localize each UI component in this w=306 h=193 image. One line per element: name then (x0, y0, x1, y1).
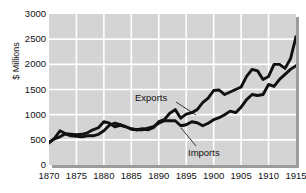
y-tick-label: 0 (18, 160, 46, 170)
plot-area (49, 14, 296, 165)
x-tick-label: 1870 (34, 170, 64, 181)
y-axis-tick-labels: 050010001500200025003000 (14, 0, 46, 193)
y-tick-label: 3000 (18, 9, 46, 19)
imports-series-label: Imports (188, 147, 220, 158)
y-tick-label: 500 (18, 135, 46, 145)
y-tick-label: 1500 (18, 85, 46, 95)
x-tick-label: 1890 (144, 170, 174, 181)
x-tick-label: 1915 (281, 170, 306, 181)
y-tick-label: 1000 (18, 110, 46, 120)
x-tick-label: 1880 (89, 170, 119, 181)
exports-series-label: Exports (135, 92, 167, 103)
y-tick-label: 2000 (18, 59, 46, 69)
x-tick-label: 1895 (171, 170, 201, 181)
series-line-imports (49, 66, 296, 143)
y-tick-label: 2500 (18, 34, 46, 44)
chart-container: $ Millions 050010001500200025003000 1870… (0, 0, 306, 193)
x-tick-label: 1900 (199, 170, 229, 181)
x-tick-label: 1885 (116, 170, 146, 181)
x-tick-label: 1910 (254, 170, 284, 181)
x-tick-label: 1905 (226, 170, 256, 181)
chart-plot-svg (49, 14, 296, 165)
imports-leader-line (181, 128, 196, 146)
x-tick-label: 1875 (61, 170, 91, 181)
